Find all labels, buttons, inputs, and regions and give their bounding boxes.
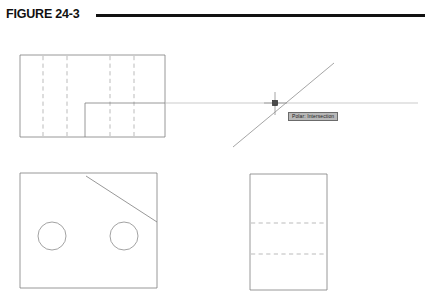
front-view-hole-left — [38, 222, 66, 250]
top-view — [20, 55, 165, 137]
front-view — [20, 173, 157, 288]
cad-drawing-canvas — [0, 0, 425, 298]
front-view-hole-right — [110, 222, 138, 250]
side-view — [250, 174, 327, 290]
front-view-chamfer-line — [86, 176, 157, 222]
polar-intersection-tooltip: Polar: Intersection — [288, 112, 338, 121]
intersection-snap-marker-icon — [273, 101, 278, 106]
top-view-step-outline — [85, 103, 165, 137]
polar-angle-ray — [233, 63, 334, 147]
side-view-outline — [250, 174, 327, 290]
polar-intersection-tooltip-text: Polar: Intersection — [292, 113, 334, 120]
figure-page: FIGURE 24-3 — [0, 0, 425, 298]
top-view-outline — [20, 55, 165, 137]
polar-tracking-group — [165, 63, 418, 147]
